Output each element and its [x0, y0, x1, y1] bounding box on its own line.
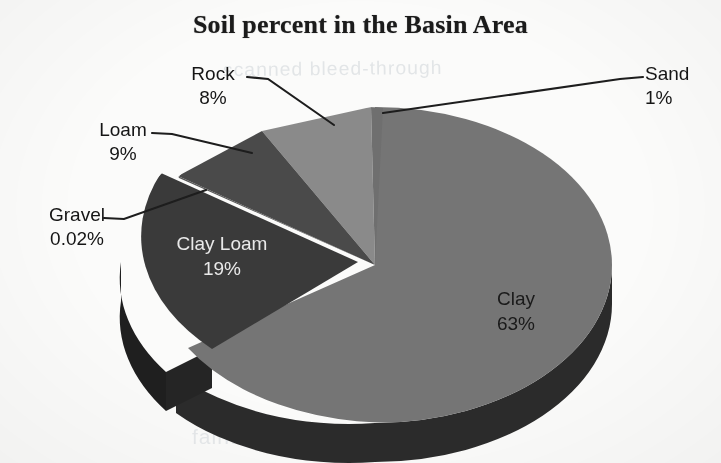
callout-name-loam: Loam — [99, 119, 147, 140]
slice-name-clay: Clay — [497, 288, 535, 309]
slice-pct-clay: 63% — [468, 312, 564, 337]
callout-pct-loam: 9% — [84, 142, 162, 166]
callout-name-rock: Rock — [191, 63, 234, 84]
callout-label-gravel: Gravel 0.02% — [22, 203, 132, 252]
leader-line-rock — [247, 77, 334, 125]
callout-label-sand: Sand 1% — [645, 62, 715, 111]
leader-line-sand — [383, 77, 643, 113]
callout-pct-sand: 1% — [645, 86, 715, 110]
chart-page: scanned bleed-through faint reverse text… — [0, 0, 721, 463]
leader-line-loam — [152, 133, 252, 153]
slice-name-clay-loam: Clay Loam — [177, 233, 268, 254]
callout-pct-gravel: 0.02% — [22, 227, 132, 251]
slice-label-clay: Clay 63% — [468, 287, 564, 336]
callout-label-loam: Loam 9% — [84, 118, 162, 167]
slice-pct-clay-loam: 19% — [152, 257, 292, 282]
callout-label-rock: Rock 8% — [176, 62, 250, 111]
callout-name-gravel: Gravel — [49, 204, 105, 225]
callout-name-sand: Sand — [645, 63, 689, 84]
callout-pct-rock: 8% — [176, 86, 250, 110]
slice-label-clay-loam: Clay Loam 19% — [152, 232, 292, 281]
